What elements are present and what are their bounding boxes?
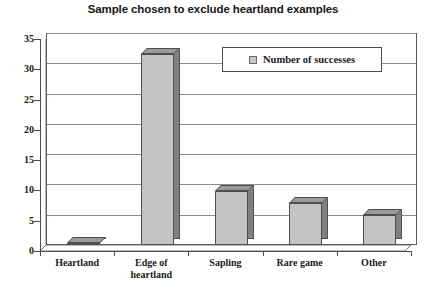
y-axis-tick-label: 10 (8, 184, 34, 195)
y-axis-tick: 5 (0, 221, 34, 222)
x-axis-label-line: Other (337, 257, 411, 269)
bar-top (141, 48, 180, 54)
bar-side (322, 197, 328, 239)
bar (67, 244, 100, 245)
bar-top (289, 197, 328, 203)
bar (215, 191, 248, 246)
x-axis-tick-mark (40, 251, 41, 256)
x-axis-label: Sapling (188, 257, 262, 269)
bar-top (363, 209, 402, 215)
x-axis-label-line: Heartland (40, 257, 114, 269)
y-axis-tick-label: 35 (8, 33, 34, 44)
y-axis-tick: 30 (0, 69, 34, 70)
y-axis-tick-label: 30 (8, 63, 34, 74)
bar-face (67, 243, 100, 245)
y-axis-tick: 20 (0, 130, 34, 131)
bar-face (141, 54, 174, 245)
y-axis-tick: 35 (0, 39, 34, 40)
y-axis-tick-label: 20 (8, 124, 34, 135)
y-axis-tick-label: 25 (8, 94, 34, 105)
y-axis-tick-label: 15 (8, 154, 34, 165)
x-axis-line (40, 251, 412, 252)
bar-top (215, 185, 254, 191)
x-axis-tick-mark (263, 251, 264, 256)
x-axis-tick-mark (188, 251, 189, 256)
y-axis-tick-label: 5 (8, 215, 34, 226)
x-axis-label: Edge ofheartland (114, 257, 188, 281)
bar (363, 215, 396, 245)
x-axis-label: Heartland (40, 257, 114, 269)
x-axis-label: Rare game (263, 257, 337, 269)
bar-face (289, 203, 322, 245)
y-axis-tick: 10 (0, 190, 34, 191)
bar-top (67, 237, 106, 243)
y-axis-tick-label: 0 (8, 245, 34, 256)
bar-side (174, 48, 180, 239)
y-axis-tick: 25 (0, 100, 34, 101)
bar (289, 203, 322, 245)
y-axis-line (40, 39, 41, 251)
chart-title: Sample chosen to exclude heartland examp… (0, 3, 426, 15)
legend-swatch-icon (249, 56, 257, 64)
bar (141, 54, 174, 245)
x-axis-tick-mark (337, 251, 338, 256)
x-axis-label-line: Rare game (263, 257, 337, 269)
bar-face (215, 191, 248, 246)
legend-entry-label: Number of successes (263, 54, 355, 65)
x-axis-label-line: Sapling (188, 257, 262, 269)
bar-face (363, 215, 396, 245)
chart-legend: Number of successes (222, 47, 382, 72)
x-axis-tick-mark (114, 251, 115, 256)
x-axis-label-line: Edge of (114, 257, 188, 269)
x-axis-tick-mark (411, 251, 412, 256)
bar-side (248, 185, 254, 240)
x-axis-label: Other (337, 257, 411, 269)
y-axis-tick: 15 (0, 160, 34, 161)
bar-chart: Sample chosen to exclude heartland examp… (0, 0, 426, 287)
x-axis-label-line: heartland (114, 269, 188, 281)
y-axis-tick: 0 (0, 251, 34, 252)
